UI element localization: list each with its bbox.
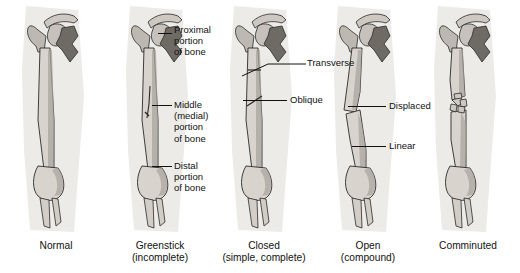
panel-comminuted: Comminuted (416, 0, 520, 240)
caption-closed-main: Closed (248, 240, 280, 251)
annotation-proximal: Proximal portion of bone (174, 24, 211, 58)
panel-closed: Closed(simple, complete) (212, 0, 316, 240)
bone-closed-icon (212, 0, 316, 240)
annotation-middle: Middle (medial) portion of bone (174, 99, 208, 144)
bone-comminuted-icon (416, 0, 520, 240)
leader-middle (152, 105, 172, 106)
leader-linear (352, 146, 386, 147)
bone-open-icon (316, 0, 420, 240)
leader-transverse (240, 60, 310, 80)
caption-open-main: Open (356, 240, 381, 251)
caption-comminuted: Comminuted (404, 240, 520, 252)
annotation-transverse: Transverse (307, 57, 354, 68)
leader-proximal (158, 33, 172, 34)
bone-normal-icon (4, 0, 108, 240)
caption-normal: Normal (4, 240, 108, 252)
annotation-displaced: Displaced (389, 100, 431, 111)
panel-open: Open(compound) (316, 0, 420, 240)
leader-displaced (348, 106, 386, 107)
caption-closed-sub: (simple, complete) (222, 252, 305, 263)
caption-greenstick-sub: (incomplete) (132, 252, 188, 263)
leader-distal (152, 166, 172, 167)
annotation-linear: Linear (389, 140, 415, 151)
caption-greenstick-main: Greenstick (136, 240, 185, 251)
bone-fracture-figure: Normal Greenstick(incomplete) (0, 0, 520, 273)
panel-normal: Normal (4, 0, 108, 240)
annotation-distal: Distal portion of bone (174, 160, 206, 194)
annotation-oblique: Oblique (290, 94, 323, 105)
leader-oblique (243, 100, 287, 101)
caption-open-sub: (compound) (341, 252, 395, 263)
